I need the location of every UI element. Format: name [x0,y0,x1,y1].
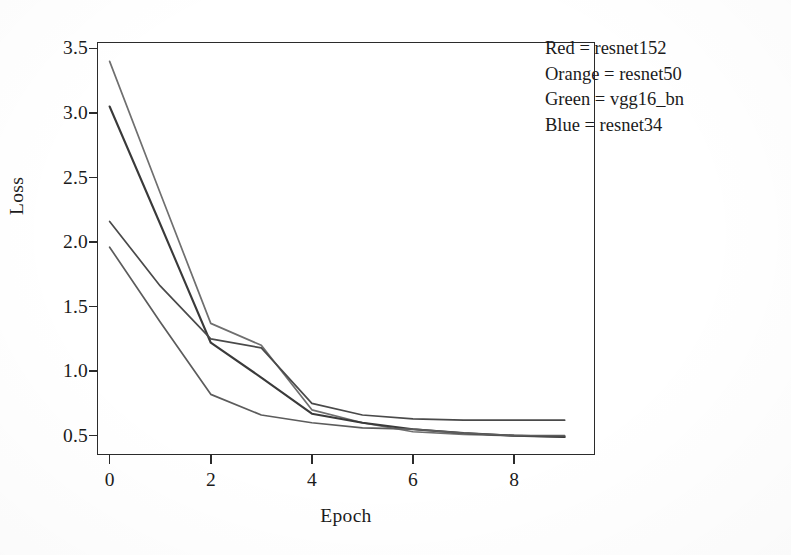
y-axis-tick-mark [89,177,97,179]
x-axis-tick-mark [513,455,515,464]
series-line-resnet152 [110,107,565,437]
series-line-vgg16-bn [110,61,565,437]
y-axis-tick-label: 1.5 [63,297,88,317]
series-group [110,61,565,437]
series-line-resnet34 [110,221,565,420]
x-axis-tick-label: 8 [494,470,534,490]
x-axis-tick-mark [311,455,313,464]
x-axis-tick-mark [412,455,414,464]
x-axis-tick-label: 2 [191,470,231,490]
legend-entry: Blue = resnet34 [545,113,684,139]
y-axis-tick-mark [89,306,97,308]
y-axis-tick-mark [89,112,97,114]
series-line-resnet50 [110,247,565,435]
plot-lines-svg [97,42,595,455]
y-axis-tick-label: 0.5 [63,426,88,446]
legend-entry: Green = vgg16_bn [545,87,684,113]
y-axis-tick-label: 3.5 [63,38,88,58]
legend-entry: Orange = resnet50 [545,62,684,88]
y-axis-tick-label: 2.0 [63,232,88,252]
y-axis-title: Loss [6,177,28,215]
legend-entry: Red = resnet152 [545,36,684,62]
y-axis-tick-label: 3.0 [63,103,88,123]
y-axis-tick-mark [89,48,97,50]
y-axis-tick-labels: 0.51.01.52.02.53.03.5 [0,0,88,555]
x-axis-title: Epoch [97,505,595,527]
x-axis-tick-label: 4 [292,470,332,490]
x-axis-tick-mark [210,455,212,464]
y-axis-tick-mark [89,435,97,437]
loss-chart-figure: 0.51.01.52.02.53.03.5 02468 Loss Epoch R… [0,0,791,555]
x-axis-tick-mark [109,455,111,464]
y-axis-tick-mark [89,241,97,243]
y-axis-tick-label: 2.5 [63,168,88,188]
x-axis-tick-label: 6 [393,470,433,490]
legend: Red = resnet152Orange = resnet50Green = … [545,36,684,138]
y-axis-tick-mark [89,370,97,372]
x-axis-tick-label: 0 [90,470,130,490]
y-axis-tick-label: 1.0 [63,361,88,381]
